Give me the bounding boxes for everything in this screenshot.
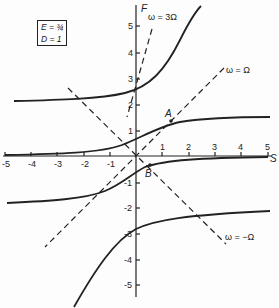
label-b: B: [145, 168, 152, 179]
label-omega-minus-omega: ω = −Ω: [225, 232, 255, 242]
parameter-legend: E = ¾ D = 1: [37, 20, 67, 46]
label-omega-3omega: ω = 3Ω: [148, 12, 177, 22]
svg-text:2: 2: [186, 142, 191, 152]
svg-text:2: 2: [128, 100, 133, 110]
svg-text:-3: -3: [54, 159, 62, 169]
y-axis-label: F: [141, 3, 148, 14]
point-b: [148, 163, 152, 167]
svg-text:1: 1: [128, 126, 133, 136]
point-a: [169, 119, 173, 123]
svg-text:-5: -5: [2, 159, 10, 169]
curve-middle-lower-branch: [7, 157, 268, 203]
label-a: A: [164, 108, 172, 119]
svg-text:5: 5: [265, 142, 270, 152]
svg-text:-1: -1: [107, 159, 115, 169]
legend-line-e: E = ¾: [41, 21, 66, 33]
svg-text:-5: -5: [124, 280, 132, 290]
svg-text:5: 5: [128, 21, 133, 31]
svg-text:1: 1: [160, 142, 165, 152]
x-axis-label: S: [270, 153, 277, 164]
svg-text:4: 4: [128, 48, 133, 58]
legend-line-d: D = 1: [41, 33, 66, 45]
line-omega-omega: [45, 68, 224, 247]
svg-text:3: 3: [212, 142, 217, 152]
phase-plot: -5 -4 -3 -2 -1 1 2 3 4 5 5 4 3 2 1 -1 -2…: [0, 0, 279, 308]
curve-middle-upper-branch: [5, 117, 270, 155]
axes: [3, 5, 272, 297]
svg-text:3: 3: [128, 74, 133, 84]
label-omega-omega: ω = Ω: [226, 65, 250, 75]
svg-text:-2: -2: [81, 159, 89, 169]
svg-text:-4: -4: [124, 255, 132, 265]
svg-text:-4: -4: [28, 159, 36, 169]
svg-text:4: 4: [238, 142, 243, 152]
svg-text:-2: -2: [124, 203, 132, 213]
curve-lower-branch: [74, 211, 270, 307]
